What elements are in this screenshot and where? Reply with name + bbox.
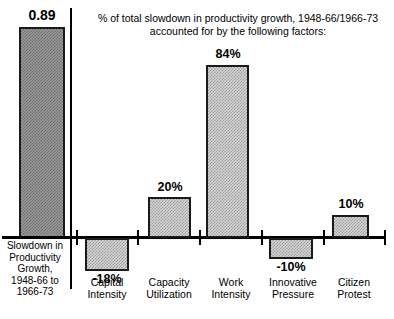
axis-tick — [261, 230, 263, 245]
category-label-citizen-protest: Citizen Protest — [324, 276, 384, 300]
bar-innovative-pressure — [269, 238, 313, 259]
category-label-innovative-pressure: Innovative Pressure — [262, 276, 324, 300]
category-label-capital-intensity: Capital Intensity — [77, 276, 137, 300]
axis-tick — [323, 230, 325, 245]
axis-tick — [137, 230, 139, 245]
axis-tick — [199, 230, 201, 245]
axis-baseline — [2, 236, 386, 239]
bar-citizen-protest — [332, 215, 369, 238]
bar-chart: % of total slowdown in productivity grow… — [0, 0, 394, 319]
category-label-work-intensity: Work Intensity — [201, 276, 261, 300]
axis-tick — [384, 230, 386, 245]
category-label-capacity-utilization: Capacity Utilization — [139, 276, 199, 300]
bar-capacity-utilization — [148, 197, 191, 238]
bar-slowdown-reference — [19, 27, 65, 238]
reference-value-label: 0.89 — [8, 8, 76, 22]
value-label-innovative-pressure: -10% — [266, 260, 316, 274]
panel-divider — [70, 8, 72, 289]
bar-capital-intensity — [85, 238, 129, 271]
reference-axis-label: Slowdown in Productivity Growth, 1948-66… — [2, 240, 68, 298]
value-label-work-intensity: 84% — [203, 47, 253, 61]
chart-title: % of total slowdown in productivity grow… — [88, 12, 388, 38]
axis-tick — [76, 230, 78, 245]
bar-work-intensity — [206, 65, 249, 238]
value-label-citizen-protest: 10% — [331, 197, 371, 211]
value-label-capacity-utilization: 20% — [145, 180, 195, 194]
